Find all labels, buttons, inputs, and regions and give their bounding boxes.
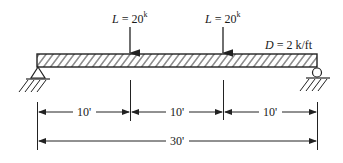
roller-support-right bbox=[300, 68, 330, 91]
pin-support-left bbox=[19, 67, 50, 92]
dimension-total: 30' bbox=[39, 134, 316, 148]
point-load-2: L = 20k bbox=[204, 10, 240, 53]
dimension-label-1: 10' bbox=[77, 105, 91, 119]
dimension-segment-2: 10' bbox=[132, 105, 222, 119]
point-load-1: L = 20k bbox=[111, 10, 147, 53]
dimension-label-3: 10' bbox=[263, 105, 277, 119]
dimension-label-2: 10' bbox=[170, 105, 184, 119]
point-load-1-label: L = 20k bbox=[111, 10, 147, 26]
dimension-segment-3: 10' bbox=[225, 105, 316, 119]
dimension-segment-1: 10' bbox=[39, 105, 129, 119]
distributed-load-label: D = 2 k/ft bbox=[264, 38, 313, 52]
dimension-total-label: 30' bbox=[170, 134, 184, 148]
beam-diagram: L = 20k L = 20k D = 2 k/ft 10' 10' 10' bbox=[0, 0, 343, 163]
point-load-2-label: L = 20k bbox=[204, 10, 240, 26]
beam bbox=[37, 54, 317, 67]
